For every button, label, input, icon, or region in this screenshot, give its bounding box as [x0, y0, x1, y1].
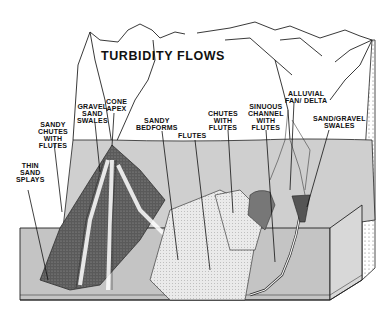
label-flutes: FLUTES: [178, 132, 206, 139]
block-diagram: [0, 0, 391, 317]
label-chutes-with-flutes: CHUTES WITH FLUTES: [208, 110, 238, 131]
diagram-title: TURBIDITY FLOWS: [101, 49, 225, 63]
label-gravel-sand-swales: GRAVEL SAND SWALES: [77, 103, 108, 124]
label-sinuous-channel-with-flutes: SINUOUS CHANNEL WITH FLUTES: [248, 103, 284, 131]
label-alluvial-fan-delta: ALLUVIAL FAN/ DELTA: [285, 90, 327, 104]
label-sandy-bedforms: SANDY BEDFORMS: [136, 117, 178, 131]
label-sand-gravel-swales: SAND/GRAVEL SWALES: [313, 115, 366, 129]
label-sandy-chutes-with-flutes: SANDY CHUTES WITH FLUTES: [38, 121, 68, 149]
label-cone-apex: CONE APEX: [106, 98, 127, 112]
label-thin-sand-splays: THIN SAND SPLAYS: [16, 162, 45, 183]
